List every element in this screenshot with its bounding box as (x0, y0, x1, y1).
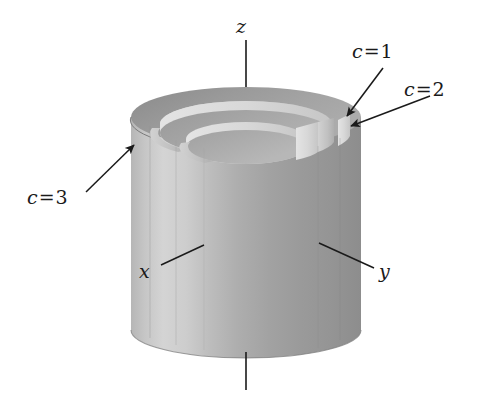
label-c-equals-2: c=2 (404, 80, 445, 99)
label-c1-value: 1 (381, 40, 393, 62)
y-axis-label: y (379, 262, 390, 281)
label-c2-relation: = (415, 78, 433, 100)
label-c3-var: c (27, 186, 38, 208)
leader-c2 (351, 96, 430, 126)
label-c2-var: c (404, 78, 415, 100)
label-c2-value: 2 (433, 78, 445, 100)
label-c3-value: 3 (56, 186, 68, 208)
leader-c3 (86, 145, 134, 192)
x-axis-label: x (139, 262, 150, 281)
leader-c1 (347, 68, 383, 116)
label-c1-relation: = (363, 40, 381, 62)
label-c-equals-1: c=1 (352, 42, 393, 61)
label-c1-var: c (352, 40, 363, 62)
label-c-equals-3: c=3 (27, 188, 68, 207)
figure-canvas: c=1 c=2 c=3 z x y (0, 0, 495, 399)
cylinder-diagram-svg (0, 0, 495, 399)
z-axis-label: z (236, 17, 246, 36)
label-c3-relation: = (38, 186, 56, 208)
